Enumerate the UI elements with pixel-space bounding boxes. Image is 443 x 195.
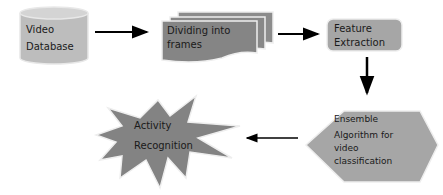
feature-label-line1: Feature	[334, 24, 372, 34]
video-db-label-line2: Database	[26, 42, 74, 52]
ensemble-label-line2: Algorithm for	[334, 131, 393, 140]
dividing-label-line1: Dividing into	[167, 26, 230, 36]
activity-label-line1: Activity	[134, 121, 171, 131]
ensemble-label-line3: video	[334, 144, 359, 153]
video-db-label-line1: Video	[26, 25, 54, 35]
video-database-node	[20, 7, 88, 64]
dividing-label-line2: frames	[167, 40, 202, 50]
ensemble-label-line1: Ensemble	[334, 115, 378, 124]
dividing-frames-node	[162, 12, 273, 62]
ensemble-label-line4: classification	[334, 157, 392, 166]
activity-label-line2: Recognition	[134, 141, 193, 151]
feature-label-line2: Extraction	[334, 38, 385, 48]
